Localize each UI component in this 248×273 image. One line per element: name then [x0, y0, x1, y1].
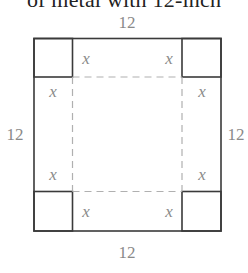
x-label-top-left-h: x	[81, 49, 90, 68]
corner-square-bottom-right	[182, 192, 221, 232]
cut-square-diagram: 12 12 12 12 x x x x x x x x	[0, 0, 248, 273]
outer-square	[34, 39, 221, 232]
x-label-bottom-right-h: x	[164, 202, 173, 221]
fold-lines	[73, 77, 183, 192]
corner-square-bottom-left	[34, 192, 73, 232]
side-label-right: 12	[228, 125, 245, 144]
side-label-bottom: 12	[119, 243, 136, 262]
x-label-top-left-v: x	[48, 82, 57, 101]
x-label-top-right-h: x	[164, 49, 173, 68]
x-label-bottom-left-v: x	[48, 165, 57, 184]
side-label-left: 12	[7, 125, 24, 144]
corner-square-top-left	[34, 39, 73, 78]
x-label-top-right-v: x	[197, 82, 206, 101]
corner-square-top-right	[182, 39, 221, 78]
x-label-bottom-right-v: x	[197, 165, 206, 184]
x-label-bottom-left-h: x	[81, 202, 90, 221]
side-label-top: 12	[119, 13, 136, 32]
